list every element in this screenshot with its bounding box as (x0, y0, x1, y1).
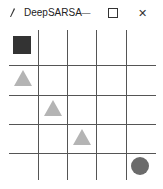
minimize-button[interactable]: — (77, 5, 95, 21)
grid-line (67, 30, 68, 180)
feather-icon (9, 8, 15, 18)
grid-line (126, 30, 127, 180)
grid-line (9, 95, 156, 96)
window-title: DeepSARSA (24, 7, 82, 18)
maximize-button[interactable] (104, 5, 122, 21)
maximize-icon (108, 8, 118, 18)
obstacle-triangle (14, 70, 32, 86)
obstacle-triangle (44, 100, 62, 116)
grid-line (9, 124, 156, 125)
gridworld-canvas (9, 30, 156, 180)
minimize-icon: — (82, 8, 91, 18)
obstacle-triangle (73, 129, 91, 145)
grid-line (96, 30, 97, 180)
agent-square (13, 36, 31, 54)
close-button[interactable]: ✕ (133, 5, 151, 21)
goal-circle (131, 157, 149, 175)
title-bar[interactable]: DeepSARSA — ✕ (0, 0, 163, 30)
grid-line (9, 65, 156, 66)
app-window: DeepSARSA — ✕ (0, 0, 163, 189)
grid-line (9, 153, 156, 154)
close-icon: ✕ (138, 7, 147, 20)
grid-line (38, 30, 39, 180)
